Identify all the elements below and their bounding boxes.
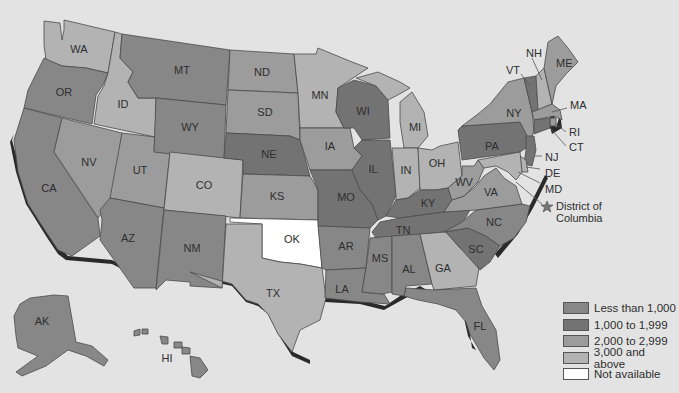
svg-text:CA: CA (41, 182, 57, 194)
svg-text:AZ: AZ (121, 232, 135, 244)
svg-text:WY: WY (181, 121, 199, 133)
legend-item: 1,000 to 1,999 (563, 317, 679, 334)
svg-text:MT: MT (174, 64, 190, 76)
svg-text:NC: NC (486, 216, 502, 228)
legend-swatch (563, 302, 589, 314)
legend-item: 3,000 and above (563, 350, 679, 367)
callout-NH: NH (526, 47, 542, 59)
svg-text:MN: MN (311, 89, 328, 101)
callout-MA: MA (570, 99, 587, 111)
svg-text:AK: AK (35, 315, 50, 327)
svg-text:OH: OH (429, 157, 446, 169)
legend-label: Not available (594, 368, 660, 380)
svg-text:SC: SC (468, 243, 483, 255)
svg-text:PA: PA (485, 140, 500, 152)
svg-text:LA: LA (335, 283, 349, 295)
legend: Less than 1,000 1,000 to 1,999 2,000 to … (563, 300, 679, 383)
svg-text:VA: VA (484, 186, 499, 198)
svg-text:IA: IA (325, 140, 336, 152)
svg-text:KY: KY (421, 197, 436, 209)
svg-text:TX: TX (266, 287, 281, 299)
legend-swatch (563, 335, 589, 347)
callout-dc-line1: District of (556, 200, 602, 212)
callout-VT: VT (506, 64, 520, 76)
callout-CT: CT (569, 141, 584, 153)
svg-text:OK: OK (284, 233, 301, 245)
callout-DE: DE (545, 167, 560, 179)
legend-label: 3,000 and above (594, 346, 679, 370)
state-RI[interactable] (550, 118, 556, 126)
legend-swatch (563, 368, 589, 380)
svg-text:CO: CO (196, 179, 213, 191)
legend-label: 1,000 to 1,999 (594, 319, 668, 331)
svg-text:ND: ND (254, 66, 270, 78)
svg-text:AR: AR (338, 240, 353, 252)
svg-text:FL: FL (474, 320, 487, 332)
svg-text:MI: MI (409, 121, 421, 133)
callout-MD: MD (545, 183, 562, 195)
legend-item: Less than 1,000 (563, 300, 679, 317)
dc-star-icon (541, 201, 553, 212)
svg-text:TN: TN (396, 224, 411, 236)
callout-NJ: NJ (545, 151, 558, 163)
callout-RI: RI (569, 126, 580, 138)
svg-text:UT: UT (133, 164, 148, 176)
svg-text:OR: OR (56, 86, 73, 98)
callout-dc: District of Columbia (556, 200, 602, 224)
svg-text:SD: SD (257, 106, 272, 118)
legend-swatch (563, 352, 589, 364)
svg-text:WI: WI (356, 105, 369, 117)
svg-text:MS: MS (372, 252, 389, 264)
svg-text:GA: GA (435, 262, 452, 274)
svg-text:WV: WV (455, 176, 473, 188)
legend-label: Less than 1,000 (594, 302, 676, 314)
svg-text:NE: NE (261, 148, 276, 160)
svg-text:AL: AL (402, 263, 415, 275)
svg-text:NM: NM (183, 242, 200, 254)
svg-text:WA: WA (70, 43, 88, 55)
callout-dc-line2: Columbia (556, 212, 602, 224)
svg-text:IL: IL (368, 163, 377, 175)
callout-ME: ME (556, 57, 573, 69)
svg-text:KS: KS (270, 190, 285, 202)
svg-text:HI: HI (162, 352, 173, 364)
legend-swatch (563, 319, 589, 331)
svg-text:MO: MO (337, 191, 355, 203)
svg-text:ID: ID (118, 98, 129, 110)
svg-text:NY: NY (506, 107, 522, 119)
state-AK[interactable] (14, 295, 108, 376)
svg-text:IN: IN (401, 164, 412, 176)
state-CT[interactable] (534, 118, 550, 134)
svg-text:NV: NV (81, 156, 97, 168)
